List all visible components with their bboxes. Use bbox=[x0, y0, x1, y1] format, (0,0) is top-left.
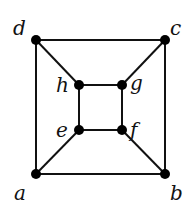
vertex-label-d: d bbox=[13, 16, 26, 40]
vertex-label-a: a bbox=[14, 181, 26, 205]
edges-group bbox=[36, 40, 165, 174]
vertex-f bbox=[117, 125, 127, 135]
vertex-a bbox=[31, 169, 41, 179]
vertex-label-f: f bbox=[128, 118, 141, 142]
vertex-h bbox=[74, 80, 84, 90]
cube-graph: abcdefgh bbox=[0, 0, 188, 208]
vertex-label-c: c bbox=[170, 16, 181, 40]
vertex-e bbox=[74, 125, 84, 135]
vertex-label-g: g bbox=[130, 71, 143, 95]
vertex-c bbox=[160, 35, 170, 45]
vertex-g bbox=[117, 80, 127, 90]
vertex-b bbox=[160, 169, 170, 179]
vertex-label-b: b bbox=[170, 181, 183, 205]
vertex-label-e: e bbox=[56, 118, 68, 142]
graph-diagram: abcdefgh bbox=[0, 0, 188, 208]
vertex-label-h: h bbox=[56, 73, 69, 97]
edge-c-g bbox=[122, 40, 165, 85]
vertex-d bbox=[31, 35, 41, 45]
edge-b-f bbox=[122, 130, 165, 174]
